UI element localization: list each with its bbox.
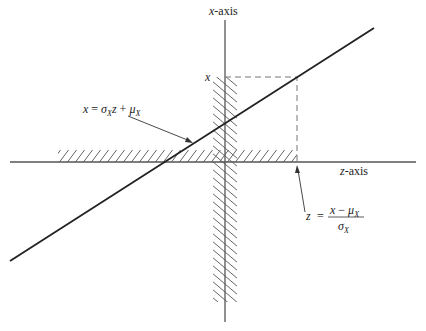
svg-text:σX: σX — [338, 219, 350, 235]
x-tick-label: x — [204, 70, 211, 84]
line-equation: x = σXz + μX — [82, 102, 141, 118]
svg-text:z: z — [305, 209, 311, 223]
z-axis-label: z-axis — [339, 164, 368, 178]
transform-equation: z = x − μX σX — [305, 203, 364, 235]
transform-equation-arrow — [295, 165, 305, 212]
x-axis-label: x-axis — [208, 4, 238, 18]
regression-line — [10, 28, 374, 261]
svg-text:=: = — [317, 209, 324, 223]
line-equation-arrow — [128, 116, 193, 143]
transformation-diagram: x-axis z-axis x x = σXz + μX z = x − μX … — [0, 0, 426, 331]
